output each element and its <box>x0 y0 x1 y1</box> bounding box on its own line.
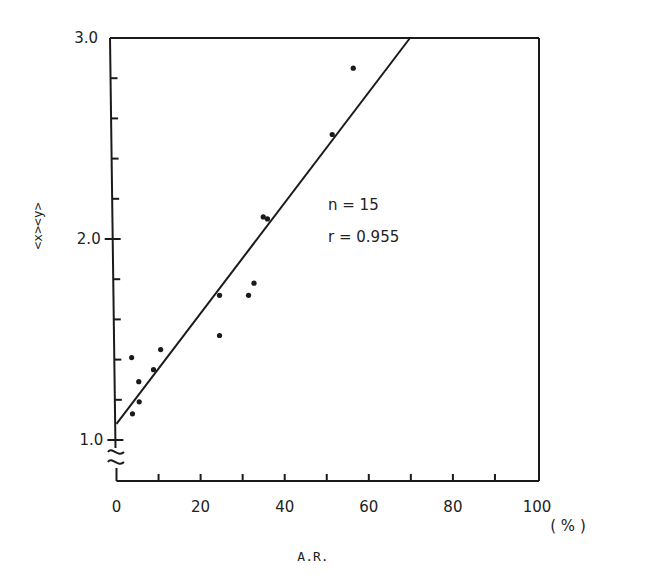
data-point <box>217 333 222 338</box>
break-squiggle <box>108 460 124 463</box>
y-tick-label: 2.0 <box>77 230 101 248</box>
x-tick-label: 100 <box>523 498 552 516</box>
scatter-chart: 1.02.03.0020406080100 n = 15 r = 0.955 (… <box>0 0 648 584</box>
data-point <box>330 132 335 137</box>
plot-frame <box>110 38 539 481</box>
x-unit-label: ( % ) <box>550 517 586 535</box>
tick-labels: 1.02.03.0020406080100 <box>74 29 551 516</box>
data-point <box>151 367 156 372</box>
x-tick-label: 80 <box>443 498 462 516</box>
annotation-n: n = 15 <box>328 196 379 214</box>
data-point <box>129 355 134 360</box>
data-point <box>130 411 135 416</box>
axis-ticks <box>105 38 495 481</box>
break-squiggle <box>108 450 124 453</box>
annotation-r: r = 0.955 <box>328 228 399 246</box>
data-point <box>158 347 163 352</box>
x-tick-label: 40 <box>275 498 294 516</box>
y-axis-line <box>110 38 116 448</box>
data-point <box>251 281 256 286</box>
x-tick-label: 0 <box>112 498 122 516</box>
x-tick-label: 60 <box>359 498 378 516</box>
data-point <box>246 293 251 298</box>
x-axis-label: A.R. <box>297 549 328 564</box>
data-point <box>217 293 222 298</box>
data-point <box>265 216 270 221</box>
y-tick-label: 3.0 <box>74 29 98 47</box>
y-tick-label: 1.0 <box>80 431 104 449</box>
data-point <box>136 379 141 384</box>
y-axis-break-icon <box>108 450 124 463</box>
data-point <box>137 399 142 404</box>
x-tick-label: 20 <box>191 498 210 516</box>
data-point <box>351 66 356 71</box>
y-axis-label: <x><y> <box>30 202 45 249</box>
